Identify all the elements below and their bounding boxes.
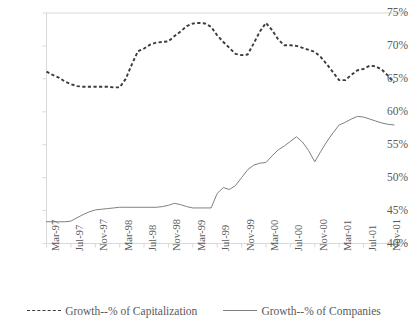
- y-tick-label: 70%: [372, 40, 408, 52]
- x-tick-label: Mar-98: [124, 219, 135, 250]
- y-tick-label: 65%: [372, 73, 408, 85]
- x-tick-label: Nov-99: [246, 218, 257, 250]
- dashed-line-swatch-icon: [27, 310, 61, 311]
- x-tick-label: Mar-01: [343, 219, 354, 250]
- x-tick-label: Jul-00: [294, 224, 305, 250]
- x-tick-label: Nov-01: [392, 218, 403, 250]
- x-tick-label: Jul-01: [368, 224, 379, 250]
- x-tick-label: Mar-00: [270, 219, 281, 250]
- x-tick-label: Jul-98: [148, 224, 159, 250]
- y-tick-label: 50%: [372, 172, 408, 184]
- series-line-companies: [47, 116, 395, 221]
- y-tick-label: 55%: [372, 139, 408, 151]
- legend-item-companies[interactable]: Growth--% of Companies: [223, 305, 380, 317]
- growth-share-line-chart: 75%70%65%60%55%50%45%40% Mar-97Jul-97Nov…: [0, 0, 408, 321]
- x-tick-label: Nov-98: [172, 218, 183, 250]
- x-tick-label: Nov-97: [99, 218, 110, 250]
- chart-legend: Growth--% of Capitalization Growth--% of…: [0, 300, 408, 321]
- x-tick-label: Mar-99: [197, 219, 208, 250]
- data-series-group: [47, 23, 395, 222]
- y-tick-label: 75%: [372, 7, 408, 19]
- x-tick-label: Jul-97: [75, 224, 86, 250]
- legend-item-capitalization[interactable]: Growth--% of Capitalization: [27, 305, 197, 317]
- x-tick-label: Jul-99: [221, 224, 232, 250]
- plot-area: [0, 0, 408, 321]
- legend-label-capitalization: Growth--% of Capitalization: [65, 305, 197, 317]
- legend-label-companies: Growth--% of Companies: [261, 305, 380, 317]
- y-tick-label: 45%: [372, 205, 408, 217]
- x-tick-label: Nov-00: [319, 218, 330, 250]
- series-line-capitalization: [47, 23, 395, 88]
- y-tick-label: 60%: [372, 106, 408, 118]
- y-tick-marks: [43, 13, 47, 244]
- solid-line-swatch-icon: [223, 310, 257, 311]
- x-tick-label: Mar-97: [51, 219, 62, 250]
